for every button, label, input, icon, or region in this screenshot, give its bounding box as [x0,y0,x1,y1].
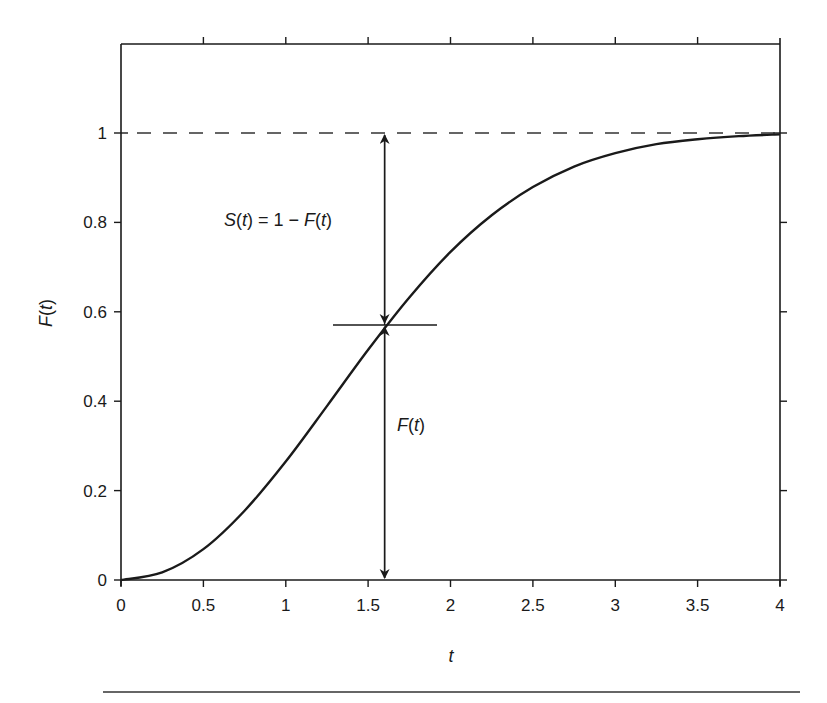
x-tick-label: 3 [611,596,620,615]
x-tick-label: 2.5 [521,596,545,615]
x-tick-label: 0 [116,596,125,615]
chart: 0 0.5 1 1.5 2 2.5 3 3.5 4 0 0.2 0.4 0.6 … [0,0,827,703]
y-axis-label: F(t) [36,299,56,327]
y-tick-label: 0.6 [83,303,107,322]
x-tick-label: 0.5 [192,596,216,615]
survival-annotation: S(t) = 1 − F(t) [224,210,332,230]
y-tick-label: 0.2 [83,482,107,501]
x-tick-label: 2 [446,596,455,615]
y-tick-label: 0.4 [83,392,107,411]
y-tick-label: 0 [98,571,107,590]
x-axis-ticks [121,37,780,587]
cdf-curve [121,134,780,580]
x-tick-label: 1.5 [356,596,380,615]
x-tick-label: 4 [775,596,784,615]
x-tick-labels: 0 0.5 1 1.5 2 2.5 3 3.5 4 [116,596,784,615]
y-axis-ticks [114,133,787,580]
x-tick-label: 1 [281,596,290,615]
annotation-arrows [333,135,437,578]
plot-frame [121,38,780,586]
y-tick-labels: 0 0.2 0.4 0.6 0.8 1 [83,124,107,590]
y-tick-label: 0.8 [83,213,107,232]
x-axis-label: t [448,646,454,666]
x-tick-label: 3.5 [686,596,710,615]
cdf-annotation: F(t) [397,415,425,435]
y-tick-label: 1 [98,124,107,143]
